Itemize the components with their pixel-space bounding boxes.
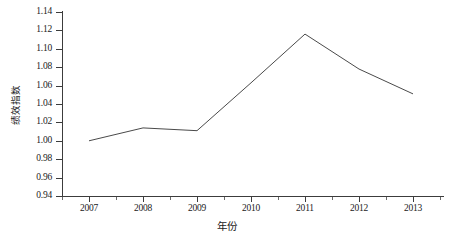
series-container <box>0 0 453 245</box>
line-chart: 绩效指数 0.940.960.981.001.021.041.061.081.1… <box>0 0 453 245</box>
series-line-performance-index <box>89 34 413 141</box>
x-axis-title: 年份 <box>0 219 453 233</box>
